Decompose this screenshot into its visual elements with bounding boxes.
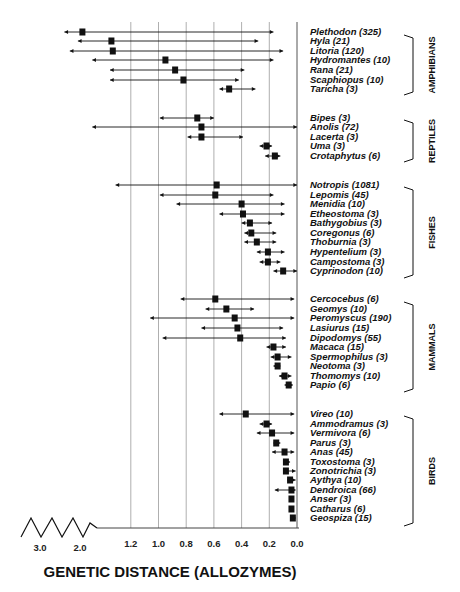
mean-marker — [240, 211, 246, 218]
mean-marker — [265, 259, 271, 266]
mean-marker — [194, 115, 200, 122]
x-tick-label: 0.4 — [235, 538, 249, 549]
mean-marker — [283, 468, 289, 475]
arrowhead-left — [110, 78, 114, 82]
group-label: FISHES — [427, 216, 437, 249]
arrowhead-right — [291, 450, 295, 454]
arrowhead-right — [235, 78, 239, 82]
mean-marker — [223, 306, 229, 313]
arrowhead-left — [260, 260, 264, 264]
group-bracket — [404, 120, 413, 162]
data-row — [116, 182, 297, 189]
arrowhead-right — [291, 316, 295, 320]
x-tick-label: 1.2 — [124, 538, 137, 549]
group-brackets: AMPHIBIANSREPTILESFISHESMAMMALSBIRDS — [404, 35, 437, 526]
arrowhead-left — [273, 269, 277, 273]
arrowhead-right — [291, 412, 295, 416]
mean-marker — [254, 239, 260, 246]
data-row — [244, 230, 276, 237]
data-row — [273, 268, 297, 275]
mean-marker — [237, 335, 243, 342]
arrowhead-left — [219, 412, 223, 416]
data-row — [260, 143, 272, 150]
arrowhead-right — [288, 374, 292, 378]
arrowhead-right — [273, 240, 277, 244]
arrowhead-right — [239, 135, 243, 139]
x-axis-title: GENETIC DISTANCE (ALLOZYMES) — [30, 563, 310, 580]
arrowhead-right — [280, 326, 284, 330]
data-row — [181, 296, 295, 303]
x-tick-label: 0.2 — [263, 538, 276, 549]
mean-marker — [248, 230, 254, 237]
arrowhead-left — [244, 240, 248, 244]
mean-marker — [212, 296, 218, 303]
data-row — [110, 67, 244, 74]
group-bracket — [404, 35, 413, 95]
data-row — [272, 449, 294, 456]
arrowhead-left — [242, 221, 246, 225]
mean-marker — [282, 449, 288, 456]
x-axis: 1.21.00.80.60.40.20.03.02.0 — [21, 518, 304, 553]
arrowhead-left — [272, 450, 276, 454]
taxon-label: Papio (6) — [310, 379, 350, 390]
data-row — [78, 38, 258, 45]
arrowhead-right — [291, 297, 295, 301]
data-row — [188, 134, 243, 141]
arrowhead-right — [282, 345, 286, 349]
arrowhead-right — [255, 39, 259, 43]
taxon-labels: Plethodon (325)Hyla (21)Litoria (120)Hyd… — [309, 26, 391, 523]
arrowhead-right — [270, 58, 274, 62]
arrowhead-right — [270, 193, 274, 197]
group-bracket — [404, 416, 413, 526]
arrowhead-right — [282, 336, 286, 340]
group-label: AMPHIBIANS — [427, 36, 437, 93]
data-row — [70, 48, 283, 55]
data-row — [265, 153, 280, 160]
mean-marker — [198, 134, 204, 141]
mean-marker — [265, 249, 271, 256]
mean-marker — [270, 344, 276, 351]
data-row — [283, 468, 296, 475]
mean-marker — [269, 430, 275, 437]
data-row — [273, 440, 280, 447]
data-row — [160, 115, 214, 122]
mean-marker — [286, 382, 292, 389]
mean-marker — [288, 506, 294, 513]
arrowhead-left — [257, 431, 261, 435]
mean-marker — [288, 496, 294, 503]
group-label: REPTILES — [427, 119, 437, 163]
x-break-tick-label: 3.0 — [33, 542, 46, 553]
arrowhead-right — [270, 30, 274, 34]
data-row — [273, 363, 280, 370]
mean-marker — [290, 515, 296, 522]
data-row — [288, 496, 294, 503]
arrowhead-left — [181, 297, 185, 301]
data-row — [160, 192, 274, 199]
x-tick-label: 0.0 — [290, 538, 303, 549]
mean-marker — [214, 182, 220, 189]
arrowhead-left — [92, 125, 96, 129]
arrowhead-right — [288, 355, 292, 359]
mean-marker — [226, 86, 232, 93]
mean-marker — [280, 268, 286, 275]
arrowhead-left — [177, 202, 181, 206]
data-row — [287, 477, 296, 484]
arrowhead-left — [64, 30, 68, 34]
data-row — [260, 259, 281, 266]
arrowhead-left — [219, 87, 223, 91]
mean-marker — [264, 143, 270, 150]
group-label: BIRDS — [427, 457, 437, 485]
data-series — [64, 29, 297, 522]
data-row — [242, 220, 272, 227]
axis-break-zigzag — [21, 518, 97, 537]
data-row — [279, 373, 291, 380]
taxon-label: Geospiza (15) — [310, 512, 372, 523]
mean-marker — [287, 477, 293, 484]
mean-marker — [110, 48, 116, 55]
arrowhead-left — [70, 49, 74, 53]
data-row — [257, 249, 285, 256]
mean-marker — [212, 192, 218, 199]
arrowhead-right — [293, 269, 297, 273]
arrowhead-right — [268, 221, 272, 225]
mean-marker — [234, 325, 240, 332]
